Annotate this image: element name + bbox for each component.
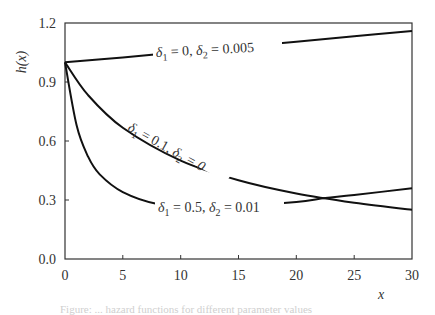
y-axis: 0.0 0.3 0.6 0.9 1.2 h(x) bbox=[14, 16, 69, 267]
figure-caption: Figure: ... hazard functions for differe… bbox=[60, 303, 312, 315]
x-axis: 0 5 10 15 20 25 30 x bbox=[62, 255, 420, 302]
x-tick-label: 30 bbox=[405, 268, 419, 283]
x-tick-label: 15 bbox=[232, 268, 246, 283]
y-tick-label: 0.0 bbox=[39, 252, 57, 267]
y-axis-label: h(x) bbox=[14, 50, 30, 73]
curve-d1-0.5-d2-0.01 bbox=[65, 62, 412, 207]
x-tick-label: 0 bbox=[62, 268, 69, 283]
x-tick-label: 20 bbox=[289, 268, 303, 283]
x-tick-label: 25 bbox=[347, 268, 361, 283]
x-axis-label: x bbox=[377, 287, 385, 302]
y-tick-label: 0.9 bbox=[39, 75, 57, 90]
y-tick-label: 1.2 bbox=[39, 16, 57, 31]
x-tick-label: 10 bbox=[174, 268, 188, 283]
y-tick-label: 0.3 bbox=[39, 193, 57, 208]
y-tick-label: 0.6 bbox=[39, 134, 57, 149]
x-tick-label: 5 bbox=[119, 268, 126, 283]
